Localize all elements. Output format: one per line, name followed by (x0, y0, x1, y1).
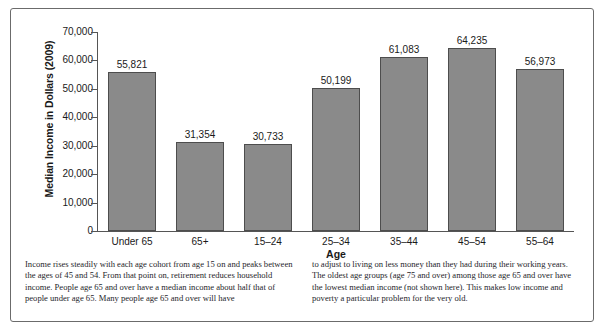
plot-area: 55,82131,35430,73350,19961,08364,23556,9… (98, 32, 574, 231)
x-axis-tick-label: 35–44 (370, 235, 438, 248)
y-axis-tick-labels: 70,00060,00050,00040,00030,00020,00010,0… (35, 9, 93, 257)
bar-value-label: 61,083 (370, 44, 438, 55)
bar-chart: Median Income in Dollars (2009) 70,00060… (11, 9, 595, 257)
bar-value-label: 64,235 (438, 35, 506, 46)
bar-group: 64,235 (438, 32, 506, 231)
bar (312, 88, 360, 231)
x-axis-tick-label: 55–64 (506, 235, 574, 248)
bar (108, 72, 156, 231)
bar-group: 30,733 (234, 32, 302, 231)
y-axis-tick-label: 30,000 (39, 141, 93, 151)
x-axis-line (97, 231, 574, 232)
y-axis-tick-mark (91, 146, 97, 147)
bar (516, 69, 564, 231)
y-axis-tick-mark (91, 89, 97, 90)
y-axis-tick-mark (91, 174, 97, 175)
bar-group: 31,354 (166, 32, 234, 231)
y-axis-tick-label: 70,000 (39, 27, 93, 37)
y-axis-tick-label: 60,000 (39, 55, 93, 65)
x-axis-tick-label: 65+ (166, 235, 234, 248)
y-axis-tick-mark (91, 117, 97, 118)
bar (380, 57, 428, 231)
bar (244, 144, 292, 231)
bar-group: 61,083 (370, 32, 438, 231)
bar-value-label: 56,973 (506, 56, 574, 67)
x-axis-tick-label: 45–54 (438, 235, 506, 248)
x-axis-tick-label: 25–34 (302, 235, 370, 248)
x-axis-tick-label: 15–24 (234, 235, 302, 248)
bar-value-label: 30,733 (234, 131, 302, 142)
bar (176, 142, 224, 231)
y-axis-tick-mark (91, 203, 97, 204)
figure-caption: Income rises steadily with each age coho… (11, 259, 595, 321)
bar-value-label: 50,199 (302, 75, 370, 86)
caption-column-left: Income rises steadily with each age coho… (25, 259, 294, 321)
y-axis-tick-mark (91, 231, 97, 232)
bar-group: 50,199 (302, 32, 370, 231)
bar (448, 48, 496, 231)
y-axis-tick-label: 0 (39, 226, 93, 236)
y-axis-tick-label: 20,000 (39, 169, 93, 179)
y-axis-tick-mark (91, 32, 97, 33)
bar-value-label: 55,821 (98, 59, 166, 70)
y-axis-tick-mark (91, 60, 97, 61)
bar-value-label: 31,354 (166, 129, 234, 140)
bar-group: 55,821 (98, 32, 166, 231)
x-axis-tick-label: Under 65 (98, 235, 166, 248)
y-axis-tick-label: 50,000 (39, 84, 93, 94)
y-axis-tick-label: 10,000 (39, 198, 93, 208)
y-axis-tick-label: 40,000 (39, 112, 93, 122)
bar-group: 56,973 (506, 32, 574, 231)
caption-column-right: to adjust to living on less money than t… (312, 259, 581, 321)
figure-frame: Median Income in Dollars (2009) 70,00060… (10, 8, 594, 322)
